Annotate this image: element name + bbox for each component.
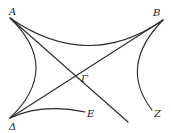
geometric-diagram: A B Γ Δ E Z — [0, 0, 171, 133]
curve-a-b — [10, 18, 163, 46]
label-z: Z — [153, 108, 162, 119]
label-delta: Δ — [8, 121, 16, 132]
line-delta-b — [10, 20, 163, 118]
label-b: B — [152, 7, 160, 18]
label-e: E — [86, 108, 95, 119]
curve-a-delta — [10, 18, 36, 118]
label-gamma: Γ — [80, 73, 89, 84]
label-a: A — [8, 6, 16, 17]
curve-delta-e — [10, 109, 85, 118]
